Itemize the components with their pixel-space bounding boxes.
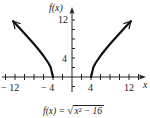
y-tick-label-4: 4 xyxy=(62,54,67,64)
formula-lhs: f(x) = xyxy=(43,106,65,116)
function-caption: f(x) = √x² − 16 xyxy=(43,104,104,116)
x-axis-title: x xyxy=(143,80,147,90)
y-tick-label-12: 12 xyxy=(58,15,68,25)
x-tick-label-neg4: − 4 xyxy=(41,83,54,93)
left-branch-curve xyxy=(13,21,53,77)
function-graph xyxy=(0,0,150,118)
formula-radicand: x² − 16 xyxy=(73,105,104,116)
x-tick-label-4: 4 xyxy=(88,83,93,93)
right-branch-curve xyxy=(91,21,131,77)
y-axis-title: f(x) xyxy=(49,3,63,13)
x-tick-label-12: 12 xyxy=(124,83,134,93)
axes xyxy=(2,7,146,92)
x-tick-label-neg12: − 12 xyxy=(1,83,19,93)
